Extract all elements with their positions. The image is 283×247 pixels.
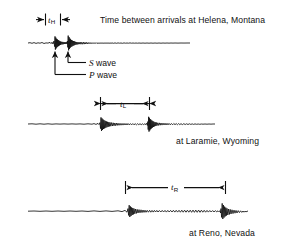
bracket-helena	[36, 14, 70, 26]
trace-laramie	[28, 117, 215, 132]
pointer-s-wave	[68, 52, 86, 63]
bracket-reno	[126, 181, 226, 194]
trace-reno	[28, 203, 248, 219]
trace-helena	[28, 36, 190, 51]
seismogram-graphics	[0, 0, 283, 247]
bracket-laramie	[101, 97, 150, 110]
seismogram-figure: Time between arrivals at Helena, Montana…	[0, 0, 283, 247]
